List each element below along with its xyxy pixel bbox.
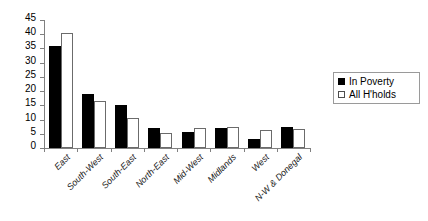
bar-in-poverty bbox=[115, 105, 127, 148]
y-axis-tick-label: 45 bbox=[25, 13, 36, 23]
y-axis-tick-label: 5 bbox=[30, 127, 36, 137]
bar-all-h-holds bbox=[227, 127, 239, 148]
bar-all-h-holds bbox=[127, 118, 139, 148]
y-axis-tick-label: 0 bbox=[30, 141, 36, 151]
x-axis-tick-mark bbox=[44, 148, 45, 152]
x-axis-category-label: South-East bbox=[100, 152, 139, 191]
bar-in-poverty bbox=[182, 132, 194, 148]
bar-all-h-holds bbox=[293, 129, 305, 148]
x-axis-tick-mark bbox=[244, 148, 245, 152]
legend-label-in-poverty: In Poverty bbox=[349, 76, 394, 87]
bar-in-poverty bbox=[281, 127, 293, 148]
bar-all-h-holds bbox=[61, 33, 73, 148]
bar-group bbox=[111, 20, 144, 148]
x-axis-tick-mark bbox=[310, 148, 311, 152]
bar-group bbox=[144, 20, 177, 148]
y-axis-tick-label: 10 bbox=[25, 113, 36, 123]
bar-group bbox=[44, 20, 77, 148]
legend-label-all-hholds: All H'holds bbox=[349, 89, 396, 100]
y-axis-tick-label: 15 bbox=[25, 98, 36, 108]
x-axis-tick-mark bbox=[77, 148, 78, 152]
bar-in-poverty bbox=[148, 128, 160, 148]
bar-group bbox=[177, 20, 210, 148]
bar-group bbox=[77, 20, 110, 148]
x-axis-tick-mark bbox=[111, 148, 112, 152]
bar-group bbox=[210, 20, 243, 148]
plot-area bbox=[44, 20, 310, 148]
filled-square-icon bbox=[338, 78, 345, 85]
x-axis-category-label: North-East bbox=[134, 152, 171, 189]
y-axis-tick-label: 20 bbox=[25, 84, 36, 94]
hollow-square-icon bbox=[338, 91, 345, 98]
bar-all-h-holds bbox=[94, 101, 106, 148]
chart-legend: In Poverty All H'holds bbox=[333, 72, 420, 104]
bar-all-h-holds bbox=[194, 128, 206, 148]
x-axis-category-label: Mid-West bbox=[171, 152, 205, 186]
y-axis-tick-label: 40 bbox=[25, 27, 36, 37]
y-axis-tick-label: 30 bbox=[25, 56, 36, 66]
bar-in-poverty bbox=[215, 128, 227, 148]
bar-all-h-holds bbox=[260, 130, 272, 148]
bar-in-poverty bbox=[49, 46, 61, 148]
bar-group bbox=[277, 20, 310, 148]
x-axis-category-label: Midlands bbox=[205, 152, 238, 185]
x-axis-category-label: West bbox=[250, 152, 271, 173]
x-axis-tick-mark bbox=[277, 148, 278, 152]
x-axis-category-label: East bbox=[52, 152, 72, 172]
bar-in-poverty bbox=[82, 94, 94, 148]
x-axis-tick-mark bbox=[177, 148, 178, 152]
legend-entry-in-poverty: In Poverty bbox=[338, 75, 415, 88]
bar-in-poverty bbox=[248, 139, 260, 148]
y-axis-tick-label: 35 bbox=[25, 41, 36, 51]
bar-group bbox=[244, 20, 277, 148]
bar-all-h-holds bbox=[160, 133, 172, 148]
y-axis-tick-label: 25 bbox=[25, 70, 36, 80]
x-axis-tick-mark bbox=[210, 148, 211, 152]
x-axis-tick-mark bbox=[144, 148, 145, 152]
bar-chart: 051015202530354045 EastSouth-WestSouth-E… bbox=[0, 0, 428, 221]
legend-entry-all-hholds: All H'holds bbox=[338, 88, 415, 101]
